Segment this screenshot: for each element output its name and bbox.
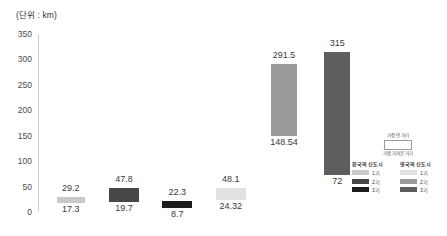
y-axis-tick-label: 50 [2,182,38,192]
bar-max-value-label: 291.5 [273,50,296,60]
bar-max-value-label: 47.8 [115,174,133,184]
bar-min-value-label: 72 [332,176,342,186]
bar-group[interactable]: 22.38.7 [162,30,192,216]
bar-min-value-label: 17.3 [62,204,80,214]
legend-item-label: 2기 [372,178,380,185]
legend-item[interactable]: 2기 [400,178,444,185]
legend-item[interactable]: 1기 [352,169,396,176]
legend-column: 영국의 신도시1기2기3기 [400,160,444,195]
bar-max-value-label: 22.3 [169,187,187,197]
bar-min-value-label: 19.7 [115,203,133,213]
legend-item[interactable]: 1기 [400,169,444,176]
legend-columns: 한국의 신도시1기2기3기영국의 신도시1기2기3기 [352,160,444,195]
legend-item-label: 2기 [420,178,428,185]
bar-group[interactable]: 47.819.7 [109,30,139,216]
bar-min-value-label: 148.54 [270,137,298,147]
chart-legend: 가장 먼 거리 가장 가까운 거리 한국의 신도시1기2기3기영국의 신도시1기… [352,133,444,195]
y-axis-tick-label: 350 [2,29,38,39]
y-axis-tick-label: 100 [2,156,38,166]
y-axis-tick-label: 150 [2,131,38,141]
legend-range-bottom-label: 가장 가까운 거리 [352,151,444,157]
legend-column: 한국의 신도시1기2기3기 [352,160,396,195]
legend-swatch-icon [352,179,369,184]
bar-group[interactable]: 29.217.3 [57,30,85,216]
bar-min-value-label: 8.7 [171,209,184,219]
bar-group[interactable]: 48.124.32 [216,30,246,216]
bar-min-value-label: 24.32 [219,201,242,211]
legend-range-top-label: 가장 먼 거리 [352,133,444,139]
y-axis-tick-label: 200 [2,105,38,115]
legend-swatch-icon [400,179,417,184]
plot-area: 050100150200250300350 29.217.347.819.722… [38,30,358,216]
legend-item[interactable]: 2기 [352,178,396,185]
legend-item[interactable]: 3기 [400,186,444,193]
bar-rect[interactable] [162,201,192,208]
bar-rect[interactable] [216,188,246,200]
bar-rect[interactable] [271,64,297,137]
bar-rect[interactable] [57,197,85,203]
y-axis-tick-label: 300 [2,54,38,64]
y-axis-tick-label: 0 [2,207,38,217]
chart-container: (단위 : km) 050100150200250300350 29.217.3… [0,0,447,236]
legend-range-box-icon [384,140,412,150]
legend-item-label: 1기 [420,169,428,176]
bar-group[interactable]: 31572 [324,30,350,216]
bar-max-value-label: 48.1 [222,174,240,184]
bar-group[interactable]: 291.5148.54 [271,30,297,216]
legend-swatch-icon [400,170,417,175]
legend-item[interactable]: 3기 [352,186,396,193]
legend-swatch-icon [352,170,369,175]
legend-swatch-icon [400,187,417,192]
legend-item-label: 3기 [372,186,380,193]
bar-rect[interactable] [109,188,139,202]
bar-rect[interactable] [324,52,350,176]
legend-item-label: 3기 [420,186,428,193]
unit-caption: (단위 : km) [16,8,57,20]
bar-group-container: 29.217.347.819.722.38.748.124.32291.5148… [38,30,358,216]
legend-range-indicator: 가장 먼 거리 가장 가까운 거리 [352,133,444,157]
legend-column-title: 한국의 신도시 [352,160,396,167]
legend-item-label: 1기 [372,169,380,176]
bar-max-value-label: 29.2 [62,183,80,193]
y-axis-tick-label: 250 [2,80,38,90]
legend-column-title: 영국의 신도시 [400,160,444,167]
legend-swatch-icon [352,187,369,192]
bar-max-value-label: 315 [330,38,345,48]
